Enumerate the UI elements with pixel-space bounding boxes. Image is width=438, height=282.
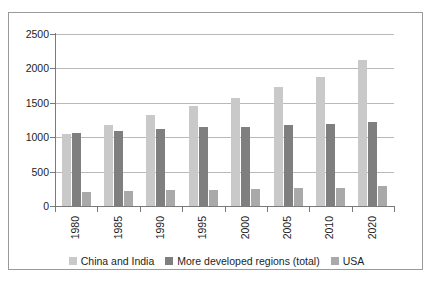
bar [82, 192, 91, 206]
x-axis-tick [182, 207, 183, 212]
legend-label: China and India [81, 256, 155, 267]
x-axis-tick-label: 2005 [282, 216, 293, 239]
bar [166, 190, 175, 206]
bar [62, 134, 71, 206]
bar-group [146, 34, 175, 206]
bar [124, 191, 133, 206]
bar [189, 106, 198, 206]
bar [231, 98, 240, 206]
x-axis-tick-label: 2010 [324, 216, 335, 239]
y-axis-tick [50, 103, 56, 104]
bar [199, 127, 208, 206]
legend-item: China and India [69, 256, 155, 267]
legend-item: USA [331, 256, 365, 267]
x-axis-tick-label: 1980 [70, 216, 81, 239]
bar [316, 77, 325, 206]
y-axis-tick-label: 2000 [9, 63, 49, 74]
x-axis-tick [225, 207, 226, 212]
y-axis-tick-label: 2500 [9, 29, 49, 40]
x-axis-tick-label: 1985 [113, 216, 124, 239]
bar [72, 133, 81, 206]
x-axis-tick [97, 207, 98, 212]
y-axis-tick [50, 68, 56, 69]
bar-group [189, 34, 218, 206]
bar [368, 122, 377, 206]
x-axis-tick [140, 207, 141, 212]
y-axis-tick-label: 0 [9, 201, 49, 212]
x-axis-tick [267, 207, 268, 212]
legend-swatch-usa [331, 257, 339, 265]
bar [358, 60, 367, 206]
bar [378, 186, 387, 206]
bar-group [274, 34, 303, 206]
y-axis-tick-label: 1000 [9, 132, 49, 143]
bar [104, 125, 113, 206]
bar-group [62, 34, 91, 206]
y-axis-tick-label: 1500 [9, 98, 49, 109]
bar [284, 125, 293, 206]
y-axis-tick [50, 34, 56, 35]
bar [156, 129, 165, 206]
legend-swatch-more-developed [165, 257, 173, 265]
bar-group [358, 34, 387, 206]
bar-group [231, 34, 260, 206]
legend-swatch-china-india [69, 257, 77, 265]
chart-legend: China and IndiaMore developed regions (t… [9, 256, 424, 267]
x-axis-tick-label: 2020 [367, 216, 378, 239]
bar [326, 124, 335, 206]
x-axis-tick [394, 207, 395, 212]
chart-container: 05001000150020002500 1980198519901995200… [8, 12, 423, 270]
bar [146, 115, 155, 206]
x-axis-tick-label: 1995 [197, 216, 208, 239]
bar-group [104, 34, 133, 206]
x-axis-tick-label: 2000 [240, 216, 251, 239]
bar [336, 188, 345, 206]
y-axis-labels: 05001000150020002500 [9, 13, 49, 282]
legend-label: More developed regions (total) [177, 256, 319, 267]
y-axis-tick-label: 500 [9, 166, 49, 177]
bar [209, 190, 218, 206]
x-axis-tick [55, 207, 56, 212]
x-axis-tick-label: 1990 [155, 216, 166, 239]
bar-group [316, 34, 345, 206]
bar [251, 189, 260, 206]
bar [241, 127, 250, 206]
bar [114, 131, 123, 206]
legend-label: USA [343, 256, 365, 267]
plot-area [55, 34, 394, 206]
legend-item: More developed regions (total) [165, 256, 319, 267]
x-axis-tick [309, 207, 310, 212]
bar [294, 188, 303, 206]
y-axis-tick [50, 137, 56, 138]
bar [274, 87, 283, 206]
y-axis-tick [50, 172, 56, 173]
x-axis-tick [352, 207, 353, 212]
